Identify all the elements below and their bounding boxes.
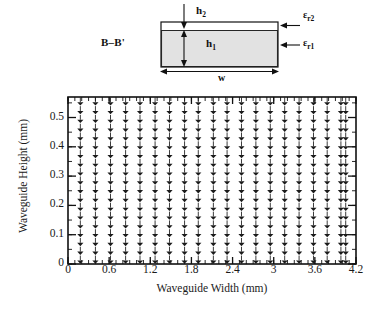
y-tick-label: 0.1 xyxy=(38,228,64,240)
h2-label-sub: 2 xyxy=(202,10,206,19)
x-tick-label: 4.2 xyxy=(339,264,370,276)
y-tick-label: 0.5 xyxy=(38,111,64,123)
w-label: w xyxy=(218,72,225,83)
y-tick-label: 0.4 xyxy=(38,140,64,152)
x-tick-label: 1.8 xyxy=(174,264,208,276)
x-axis-tick-labels: 00.61.21.82.433.64.2 xyxy=(0,264,370,282)
y-tick-label: 0.2 xyxy=(38,198,64,210)
substrate-region xyxy=(162,31,278,67)
epsilon-r2-sub: r2 xyxy=(307,14,314,23)
w-arrowhead-left xyxy=(160,69,167,75)
vector-field-plot: Waveguide Height (mm) 00.10.20.30.40.5 0… xyxy=(0,88,370,312)
x-tick-label: 1.2 xyxy=(133,264,167,276)
cross-section-diagram: B–B' h2 h1 w εr2 εr1 xyxy=(0,0,370,92)
epsilon-r1-label: εr1 xyxy=(303,37,314,51)
w-arrowhead-right xyxy=(272,69,279,75)
epsilon-r1-sub: r1 xyxy=(307,42,314,51)
y-tick-label: 0.3 xyxy=(38,169,64,181)
h2-label: h2 xyxy=(196,4,206,19)
h1-label-sub: 1 xyxy=(212,43,216,52)
x-tick-label: 3 xyxy=(257,264,291,276)
y-axis-tick-labels: 00.10.20.30.40.5 xyxy=(36,88,64,268)
y-axis-label: Waveguide Height (mm) xyxy=(17,96,29,256)
x-tick-label: 0.6 xyxy=(92,264,126,276)
x-tick-label: 3.6 xyxy=(298,264,332,276)
cross-section-svg xyxy=(0,0,370,92)
er1-arrowhead xyxy=(280,42,287,48)
x-axis-label: Waveguide Width (mm) xyxy=(68,282,356,294)
x-tick-label: 2.4 xyxy=(216,264,250,276)
er2-arrowhead xyxy=(280,23,287,29)
section-label: B–B' xyxy=(101,36,125,48)
epsilon-r2-label: εr2 xyxy=(303,9,314,23)
x-tick-label: 0 xyxy=(51,264,85,276)
h1-label: h1 xyxy=(206,37,216,52)
